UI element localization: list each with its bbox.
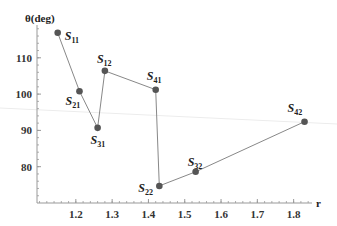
point-label-s42: S42 <box>288 101 303 117</box>
data-point-s11 <box>54 29 61 36</box>
chart: 1.21.31.41.51.61.71.88090100110 S11S21S3… <box>0 0 337 226</box>
point-label-s11: S11 <box>65 29 79 45</box>
y-tick-label: 100 <box>16 88 33 100</box>
y-tick-label: 110 <box>16 52 32 64</box>
x-tick-label: 1.6 <box>214 208 228 220</box>
x-tick-label: 1.5 <box>178 208 192 220</box>
data-point-s21 <box>76 88 83 95</box>
x-tick-label: 1.4 <box>142 208 156 220</box>
point-label-s21: S21 <box>65 94 80 110</box>
x-tick-label: 1.8 <box>287 208 301 220</box>
x-tick-label: 1.3 <box>105 208 119 220</box>
point-label-s41: S41 <box>147 69 162 85</box>
data-point-s12 <box>102 68 109 75</box>
data-point-s22 <box>156 183 163 190</box>
data-point-s41 <box>152 86 159 93</box>
x-axis-label: r <box>316 197 321 209</box>
x-tick-label: 1.7 <box>250 208 264 220</box>
y-axis-label: θ(deg) <box>25 12 55 25</box>
point-label-s22: S22 <box>138 181 153 197</box>
y-tick-label: 80 <box>21 161 33 173</box>
x-tick-label: 1.2 <box>69 208 83 220</box>
point-label-s32: S32 <box>188 155 203 171</box>
artifact-line <box>0 108 337 124</box>
series-line <box>58 33 305 186</box>
point-label-s12: S12 <box>97 52 112 68</box>
data-point-s31 <box>94 125 101 132</box>
point-label-s31: S31 <box>91 133 106 149</box>
axes: 1.21.31.41.51.61.71.88090100110 <box>16 25 313 220</box>
y-tick-label: 90 <box>21 124 33 136</box>
data-point-s42 <box>301 118 308 125</box>
